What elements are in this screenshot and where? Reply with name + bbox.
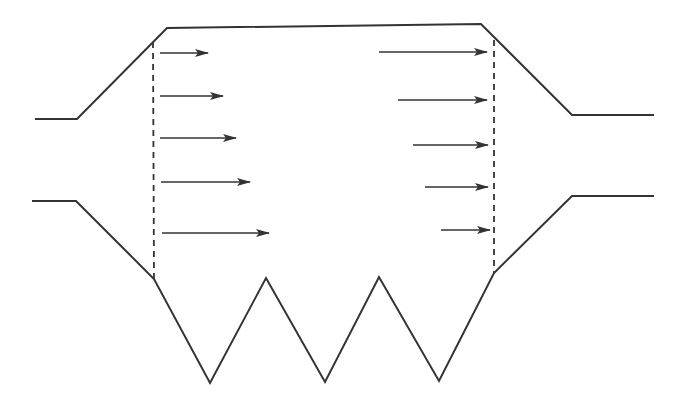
inlet-section-dashed-line	[153, 42, 154, 279]
top-wall	[35, 24, 654, 119]
bottom-wall	[32, 196, 654, 383]
inlet-velocity-arrows	[160, 53, 269, 233]
channel-flow-diagram	[0, 0, 685, 406]
diagram-svg	[0, 0, 685, 406]
section-dashed-lines	[153, 40, 494, 279]
outlet-velocity-arrows	[379, 52, 490, 230]
